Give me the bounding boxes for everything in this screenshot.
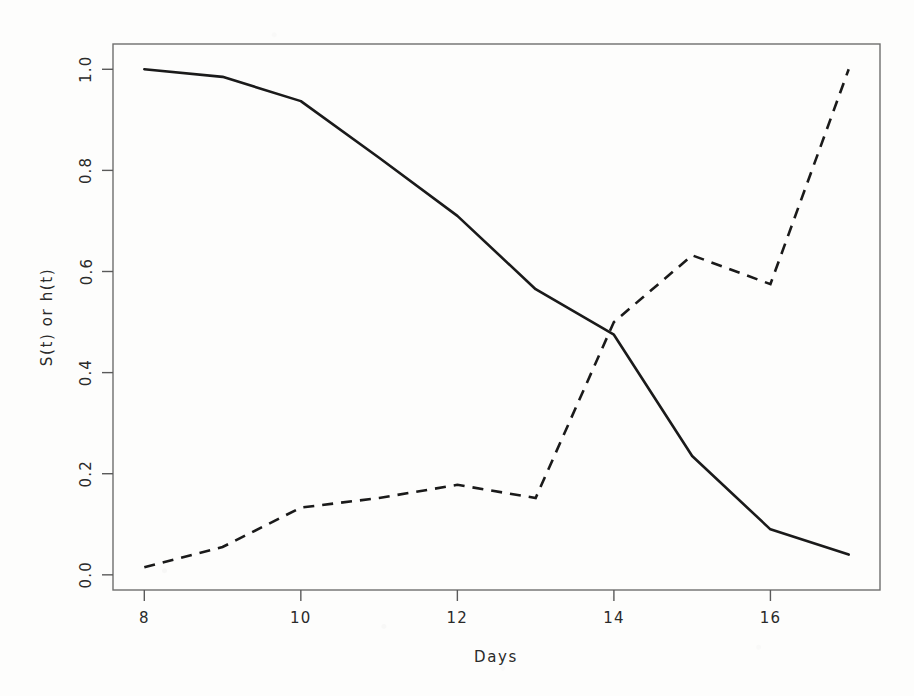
- x-tick-label: 12: [447, 609, 469, 627]
- y-tick-label: 0.0: [78, 561, 96, 588]
- series-line-s-of-t: [144, 69, 848, 554]
- x-axis-tick-labels: 810121416: [139, 609, 781, 627]
- y-axis-title: S(t) or h(t): [38, 268, 56, 366]
- x-tick-label: 16: [760, 609, 782, 627]
- x-axis-ticks: [144, 590, 770, 601]
- y-tick-label: 0.2: [78, 460, 96, 487]
- y-tick-label: 0.4: [78, 359, 96, 386]
- x-axis-title: Days: [474, 648, 518, 666]
- y-tick-label: 0.8: [78, 157, 96, 184]
- series-line-h-of-t: [144, 69, 848, 567]
- plot-frame-box: [113, 44, 880, 590]
- x-tick-label: 8: [139, 609, 150, 627]
- y-tick-label: 1.0: [78, 56, 96, 83]
- y-axis-tick-labels: 0.00.20.40.60.81.0: [78, 56, 96, 589]
- x-tick-label: 10: [290, 609, 312, 627]
- survival-hazard-plot: 0.00.20.40.60.81.0 810121416 Days S(t) o…: [0, 0, 914, 696]
- y-tick-label: 0.6: [78, 258, 96, 285]
- y-axis-ticks: [102, 69, 113, 575]
- chart-page: 0.00.20.40.60.81.0 810121416 Days S(t) o…: [0, 0, 914, 696]
- x-tick-label: 14: [603, 609, 625, 627]
